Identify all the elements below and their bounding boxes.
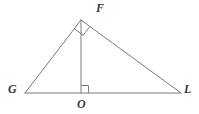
vertex-label-G: G	[8, 83, 17, 95]
segment-FL	[81, 20, 181, 93]
vertex-label-O: O	[77, 98, 86, 110]
right-angle-mark-F	[74, 26, 90, 35]
geometry-figure: F G O L	[0, 0, 199, 114]
vertex-label-F: F	[96, 2, 104, 14]
segment-GF	[25, 20, 81, 93]
right-angle-mark-O	[81, 86, 89, 94]
geometry-canvas	[0, 0, 199, 114]
vertex-label-L: L	[184, 83, 191, 95]
